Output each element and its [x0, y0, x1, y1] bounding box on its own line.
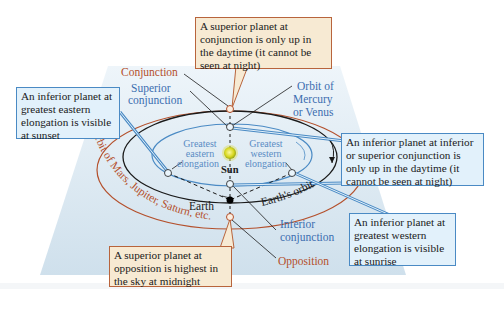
callout-eastern-elongation: An inferior planet at greatest eastern e… [16, 87, 120, 139]
callout-superior-conjunction: A superior planet at conjunction is only… [195, 17, 332, 69]
eastern-elongation-point [165, 170, 172, 177]
callout-inferior-superior-conjunction: An inferior planet at inferior or superi… [341, 133, 484, 186]
inferior-conjunction-label-1: Inferior [280, 218, 315, 230]
conjunction-label: Conjunction [121, 66, 178, 78]
western-elongation-label-3: elongation [240, 159, 292, 169]
sun-label: Sun [221, 164, 239, 176]
inferior-conjunction-label-2: conjunction [280, 231, 334, 243]
earth-label: Earth [189, 200, 214, 212]
inferior-orbit-label-3: or Venus [293, 106, 333, 118]
earth-point [227, 197, 234, 204]
opposition-point [227, 214, 234, 221]
inferior-conjunction-point [227, 181, 234, 188]
superior-conjunction-label-2: conjunction [128, 94, 182, 106]
superior-conjunction-label-1: Superior [131, 82, 171, 94]
western-elongation-point [289, 170, 296, 177]
sun-icon [222, 145, 238, 161]
eastern-elongation-label-3: elongation [172, 159, 224, 169]
conjunction-point [227, 106, 234, 113]
opposition-label: Opposition [278, 255, 329, 267]
callout-western-elongation: An inferior planet at greatest western e… [349, 213, 456, 266]
callout-opposition: A superior planet at opposition is highe… [109, 246, 232, 287]
superior-conjunction-point [227, 124, 234, 131]
inferior-orbit-label-1: Orbit of [297, 80, 334, 92]
inferior-orbit-label-2: Mercury [293, 93, 333, 105]
